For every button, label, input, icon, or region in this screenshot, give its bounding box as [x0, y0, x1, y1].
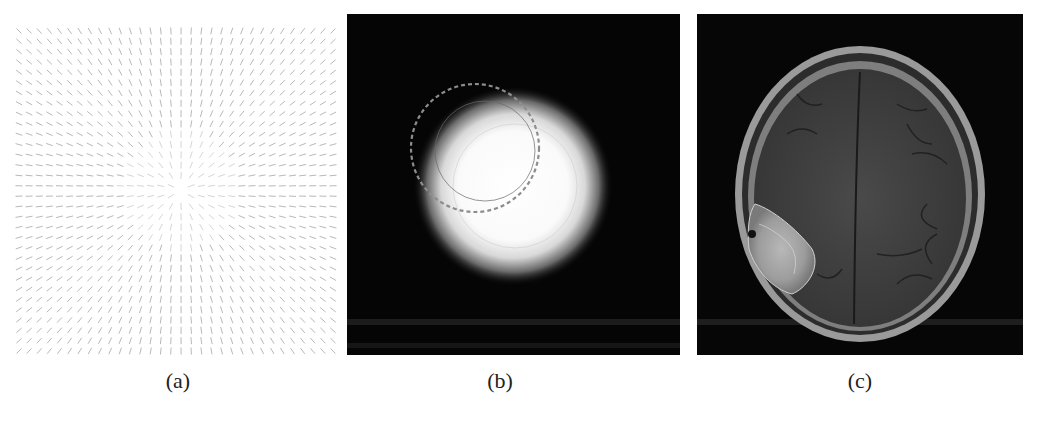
caption-a: (a) — [118, 368, 238, 394]
caption-b: (b) — [440, 368, 560, 394]
disc-contour-panel — [347, 14, 680, 355]
glowing-disc — [413, 86, 613, 286]
brain-mri-image — [697, 14, 1023, 355]
dark-spot — [748, 230, 756, 238]
caption-c: (c) — [800, 368, 920, 394]
brain-mri-panel — [697, 14, 1023, 355]
vector-field-panel — [14, 26, 338, 356]
disc-contour-image — [347, 14, 680, 355]
vector-field-plot — [14, 26, 338, 356]
